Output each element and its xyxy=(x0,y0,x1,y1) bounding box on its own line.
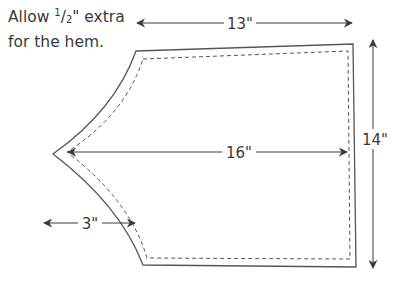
point-depth-label: 3" xyxy=(82,215,98,233)
dimension-middle-width: 16" xyxy=(68,144,347,162)
pattern-outline xyxy=(53,44,356,267)
top-width-label: 13" xyxy=(227,15,253,33)
dimension-height: 14" xyxy=(362,40,388,268)
dimension-top-width: 13" xyxy=(137,15,352,33)
seam-line-dashed xyxy=(67,51,350,259)
height-label: 14" xyxy=(362,131,388,149)
pattern-diagram: 13" 16" 14" 3" xyxy=(0,0,396,282)
middle-width-label: 16" xyxy=(226,144,252,162)
